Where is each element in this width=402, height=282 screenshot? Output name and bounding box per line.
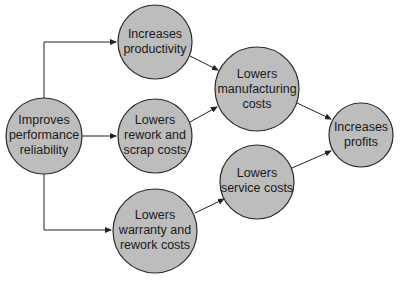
edge-warranty-to-service (195, 199, 224, 213)
flow-diagram: Improves performance reliability Increas… (0, 0, 402, 282)
edge-improves-to-warranty (44, 174, 111, 230)
node-label-line: Lowers (237, 166, 277, 180)
node-label-line: manufacturing (217, 82, 296, 96)
node-label-line: Lowers (135, 208, 175, 222)
edge-improves-to-productivity (44, 42, 116, 98)
node-label-line: scrap costs (123, 143, 186, 157)
node-increases-profits: Increases profits (329, 103, 393, 167)
node-label-line: Increases (334, 120, 388, 134)
node-lowers-rework-scrap: Lowers rework and scrap costs (118, 99, 192, 173)
node-label-line: Increases (128, 27, 182, 41)
edge-rework-to-manufacturing (190, 107, 217, 122)
node-lowers-manufacturing: Lowers manufacturing costs (215, 47, 299, 131)
node-label-line: performance (9, 128, 79, 142)
node-increases-productivity: Increases productivity (118, 5, 192, 79)
node-label-line: rework and (124, 128, 186, 142)
node-label-line: productivity (123, 42, 187, 56)
node-label-line: reliability (20, 143, 69, 157)
node-improves-performance-reliability: Improves performance reliability (6, 98, 82, 174)
node-label-line: costs (242, 97, 271, 111)
node-label-line: Improves (18, 113, 69, 127)
node-lowers-warranty-rework: Lowers warranty and rework costs (113, 189, 197, 273)
node-label-line: warranty and (118, 223, 191, 237)
node-label-line: Lowers (237, 67, 277, 81)
node-label-line: service costs (221, 181, 293, 195)
node-label-line: rework costs (120, 238, 190, 252)
node-lowers-service: Lowers service costs (220, 145, 294, 219)
edge-service-to-profits (292, 151, 331, 168)
edge-manufacturing-to-profits (297, 103, 331, 119)
edge-productivity-to-manufacturing (190, 56, 218, 70)
node-label-line: Lowers (135, 113, 175, 127)
node-label-line: profits (344, 135, 378, 149)
